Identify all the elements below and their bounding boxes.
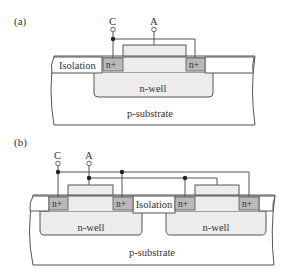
n-well-left-label-b: n-well xyxy=(78,222,105,233)
terminal-a-label-a: A xyxy=(150,16,158,27)
isolation-left-b xyxy=(30,196,49,211)
terminal-c-b xyxy=(56,161,61,166)
junction-dot-a xyxy=(111,37,115,41)
gate-left-b xyxy=(68,185,113,195)
n-plus-1-label-b: n+ xyxy=(52,199,62,209)
gate-a xyxy=(123,45,186,56)
terminal-c-label-a: C xyxy=(109,16,116,27)
terminal-c-a xyxy=(111,27,116,32)
terminal-a-label-b: A xyxy=(85,150,93,161)
terminal-c-label-b: C xyxy=(54,150,61,161)
panel-a-label: (a) xyxy=(14,15,27,28)
junction-dot-c1-b xyxy=(56,170,60,174)
p-substrate-label-b: p-substrate xyxy=(129,247,175,258)
gate-right-b xyxy=(195,185,239,195)
varactor-cross-section-diagram: (a) Isolation n+ n+ C A n-well p-substra… xyxy=(0,0,294,269)
n-plus-left-label-a: n+ xyxy=(106,60,116,70)
terminal-a-b xyxy=(87,161,92,166)
isolation-right-b xyxy=(259,196,275,211)
n-plus-4-label-b: n+ xyxy=(242,199,252,209)
junction-dot-a2-b xyxy=(183,176,187,180)
n-well-label-a: n-well xyxy=(140,83,167,94)
n-plus-3-label-b: n+ xyxy=(178,199,188,209)
isolation-label-a: Isolation xyxy=(59,60,96,71)
isolation-right-a xyxy=(205,57,254,73)
n-well-right-label-b: n-well xyxy=(203,222,230,233)
n-plus-right-label-a: n+ xyxy=(189,60,199,70)
p-substrate-label-a: p-substrate xyxy=(127,108,173,119)
junction-dot-c2-b xyxy=(120,170,124,174)
terminal-a-a xyxy=(152,27,157,32)
panel-a: (a) Isolation n+ n+ C A n-well p-substra… xyxy=(14,15,255,125)
panel-b-label: (b) xyxy=(14,136,27,149)
isolation-label-b: Isolation xyxy=(136,199,173,210)
junction-dot-a1-b xyxy=(87,176,91,180)
panel-b: (b) Isolation n+ n+ n+ n+ xyxy=(14,136,275,265)
n-plus-2-label-b: n+ xyxy=(116,199,126,209)
